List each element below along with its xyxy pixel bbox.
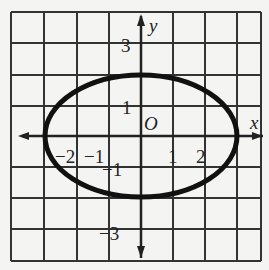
y-tick-neg3: −3 (99, 223, 119, 244)
x-axis-label: x (249, 112, 259, 133)
y-tick-neg1: −1 (102, 159, 122, 180)
y-tick-3: 3 (121, 35, 131, 56)
coordinate-grid: y x O 3 1 −1 −3 −2 −1 1 2 (0, 0, 269, 270)
origin-label: O (144, 113, 158, 134)
y-axis-arrow-up-icon (137, 14, 145, 26)
x-tick-1: 1 (168, 146, 178, 167)
axes (22, 16, 263, 258)
x-tick-neg2: −2 (55, 146, 75, 167)
x-tick-2: 2 (196, 146, 206, 167)
y-axis-label: y (147, 15, 158, 36)
y-tick-1: 1 (122, 97, 132, 118)
x-axis-arrow-left-icon (18, 132, 29, 140)
y-axis-arrow-down-icon (137, 246, 145, 258)
x-tick-neg1: −1 (84, 146, 104, 167)
